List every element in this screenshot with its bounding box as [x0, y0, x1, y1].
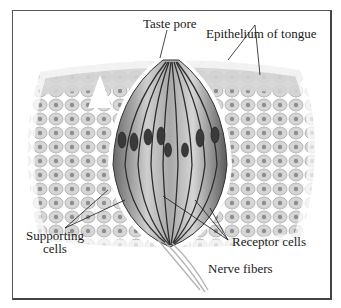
- label-nerve-fibers: Nerve fibers: [208, 262, 273, 275]
- label-receptor-cells: Receptor cells: [232, 235, 306, 248]
- taste-bud-illustration: [0, 0, 341, 308]
- label-supporting-cells: Supporting cells: [25, 229, 85, 255]
- label-taste-pore: Taste pore: [143, 17, 197, 30]
- label-supporting-line2: cells: [43, 241, 67, 256]
- label-epithelium: Epithelium of tongue: [206, 27, 316, 40]
